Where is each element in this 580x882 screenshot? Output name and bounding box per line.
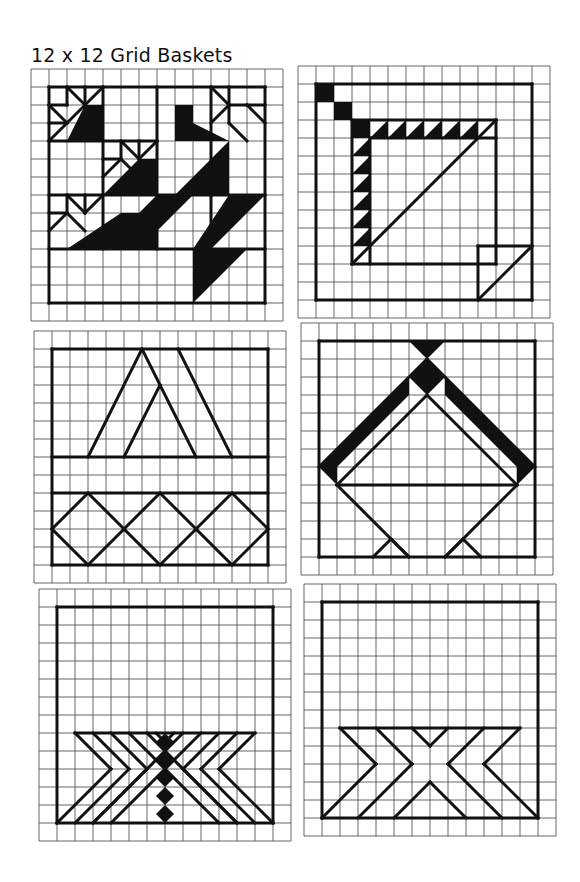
filled-triangle [352, 138, 370, 156]
basket-pattern-1 [30, 68, 284, 322]
filled-triangle [193, 249, 247, 303]
filled-triangle [373, 413, 391, 431]
filled-triangle [352, 156, 370, 174]
filled-triangle [352, 120, 370, 138]
grid-drawing [38, 588, 292, 842]
basket-pattern-2 [297, 65, 551, 319]
filled-triangle [481, 431, 499, 449]
filled-triangle [409, 359, 445, 395]
filled-triangle [156, 805, 174, 823]
filled-triangle [442, 120, 460, 138]
filled-triangle [334, 102, 352, 120]
filled-triangle [355, 431, 373, 449]
grid-drawing [303, 583, 557, 837]
filled-triangle [319, 467, 337, 485]
basket-pattern-3 [33, 330, 287, 584]
filled-triangle [316, 84, 334, 102]
basket-pattern-6 [303, 583, 557, 837]
filled-triangle [517, 467, 535, 485]
filled-triangle [352, 174, 370, 192]
filled-triangle [370, 120, 388, 138]
grid-drawing [297, 65, 551, 319]
filled-triangle [156, 787, 174, 805]
filled-triangle [352, 228, 370, 246]
page-title: 12 x 12 Grid Baskets [31, 44, 233, 66]
basket-pattern-4 [300, 322, 554, 576]
grid-drawing [33, 330, 287, 584]
filled-triangle [388, 120, 406, 138]
filled-triangle [445, 395, 463, 413]
filled-triangle [424, 120, 442, 138]
filled-triangle [352, 192, 370, 210]
filled-triangle [499, 449, 517, 467]
filled-triangle [409, 341, 445, 359]
filled-triangle [337, 449, 355, 467]
filled-triangle [391, 395, 409, 413]
grid-drawing [30, 68, 284, 322]
basket-pattern-5 [38, 588, 292, 842]
filled-triangle [175, 141, 229, 195]
filled-triangle [460, 120, 478, 138]
filled-triangle [406, 120, 424, 138]
filled-triangle [463, 413, 481, 431]
filled-triangle [352, 210, 370, 228]
grid-drawing [300, 322, 554, 576]
filled-triangle [156, 769, 174, 787]
filled-triangle [156, 751, 174, 769]
